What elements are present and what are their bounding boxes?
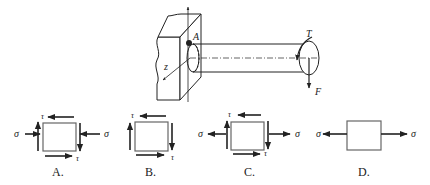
option-d[interactable]: σ σ D.	[316, 121, 417, 179]
point-a	[186, 40, 192, 46]
sigma-label: σ	[295, 128, 301, 139]
sigma-label: σ	[14, 128, 20, 139]
tau-label: τ	[76, 154, 80, 163]
sigma-label: σ	[104, 128, 110, 139]
tau-label: τ	[264, 149, 268, 158]
option-b[interactable]: τ τ B.	[130, 111, 175, 179]
force-label: F	[314, 86, 322, 97]
z-axis-label: z	[163, 61, 168, 72]
shaft	[187, 41, 319, 75]
main-figure: z A T F	[156, 7, 322, 102]
sigma-label: σ	[198, 128, 204, 139]
point-a-label: A	[192, 31, 200, 42]
option-label: D.	[358, 165, 370, 179]
tau-label: τ	[228, 110, 232, 119]
option-label: C.	[244, 165, 255, 179]
sigma-label: σ	[316, 128, 322, 139]
option-label: B.	[145, 165, 156, 179]
option-c[interactable]: σ σ τ τ C.	[198, 110, 301, 179]
option-a[interactable]: σ σ τ τ A.	[14, 112, 110, 179]
tau-label: τ	[131, 111, 135, 120]
tau-label: τ	[41, 112, 45, 121]
option-label: A.	[52, 165, 64, 179]
tau-label: τ	[171, 153, 175, 162]
wall-block	[156, 14, 201, 100]
diagram-canvas: z A T F σ σ τ τ A. τ τ	[0, 0, 430, 185]
sigma-label: σ	[411, 128, 417, 139]
diagram-svg: z A T F σ σ τ τ A. τ τ	[0, 0, 430, 185]
